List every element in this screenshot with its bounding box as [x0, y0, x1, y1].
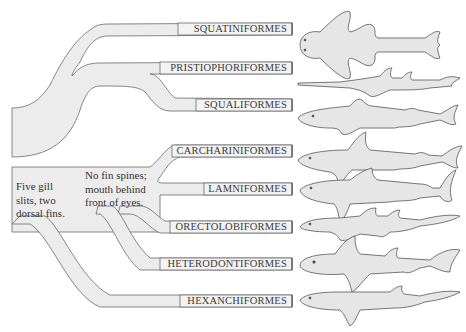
carpet-shark-icon [300, 208, 460, 241]
order-label-squaliformes: SQUALIFORMES [204, 99, 290, 111]
root-trait-line: slits, two [16, 194, 65, 208]
sawshark-icon [298, 68, 460, 97]
root-trait-note: Five gill slits, two dorsal fins. [16, 180, 65, 221]
angel-shark-icon [300, 11, 440, 78]
root-trait-line: Five gill [16, 180, 65, 194]
order-label-squatiniformes: SQUATINIFORMES [194, 23, 290, 35]
order-label-orectolobiformes: ORECTOLOBIFORMES [175, 221, 290, 233]
galeomorph-trait-line: front of eyes. [85, 196, 147, 210]
order-label-pristiophoriformes: PRISTIOPHORIFORMES [170, 62, 290, 74]
order-label-lamniformes: LAMNIFORMES [208, 183, 290, 195]
bullhead-shark-icon [300, 236, 460, 292]
phylogeny-tree [0, 0, 466, 332]
mackerel-shark-icon [300, 168, 456, 222]
branch-squalomorph [12, 23, 292, 157]
cow-shark-icon [300, 286, 460, 326]
dogfish-shark-icon [298, 99, 458, 134]
galeomorph-trait-line: mouth behind [85, 183, 147, 197]
order-label-carchariniformes: CARCHARINIFORMES [176, 145, 290, 157]
root-trait-line: dorsal fins. [16, 207, 65, 221]
galeomorph-trait-line: No fin spines; [85, 169, 147, 183]
galeomorph-trait-note: No fin spines; mouth behind front of eye… [85, 169, 147, 210]
order-label-heterodontiformes: HETERODONTIFORMES [168, 258, 291, 270]
ground-shark-icon [298, 132, 462, 184]
order-label-hexanchiformes: HEXANCHIFORMES [187, 295, 290, 307]
